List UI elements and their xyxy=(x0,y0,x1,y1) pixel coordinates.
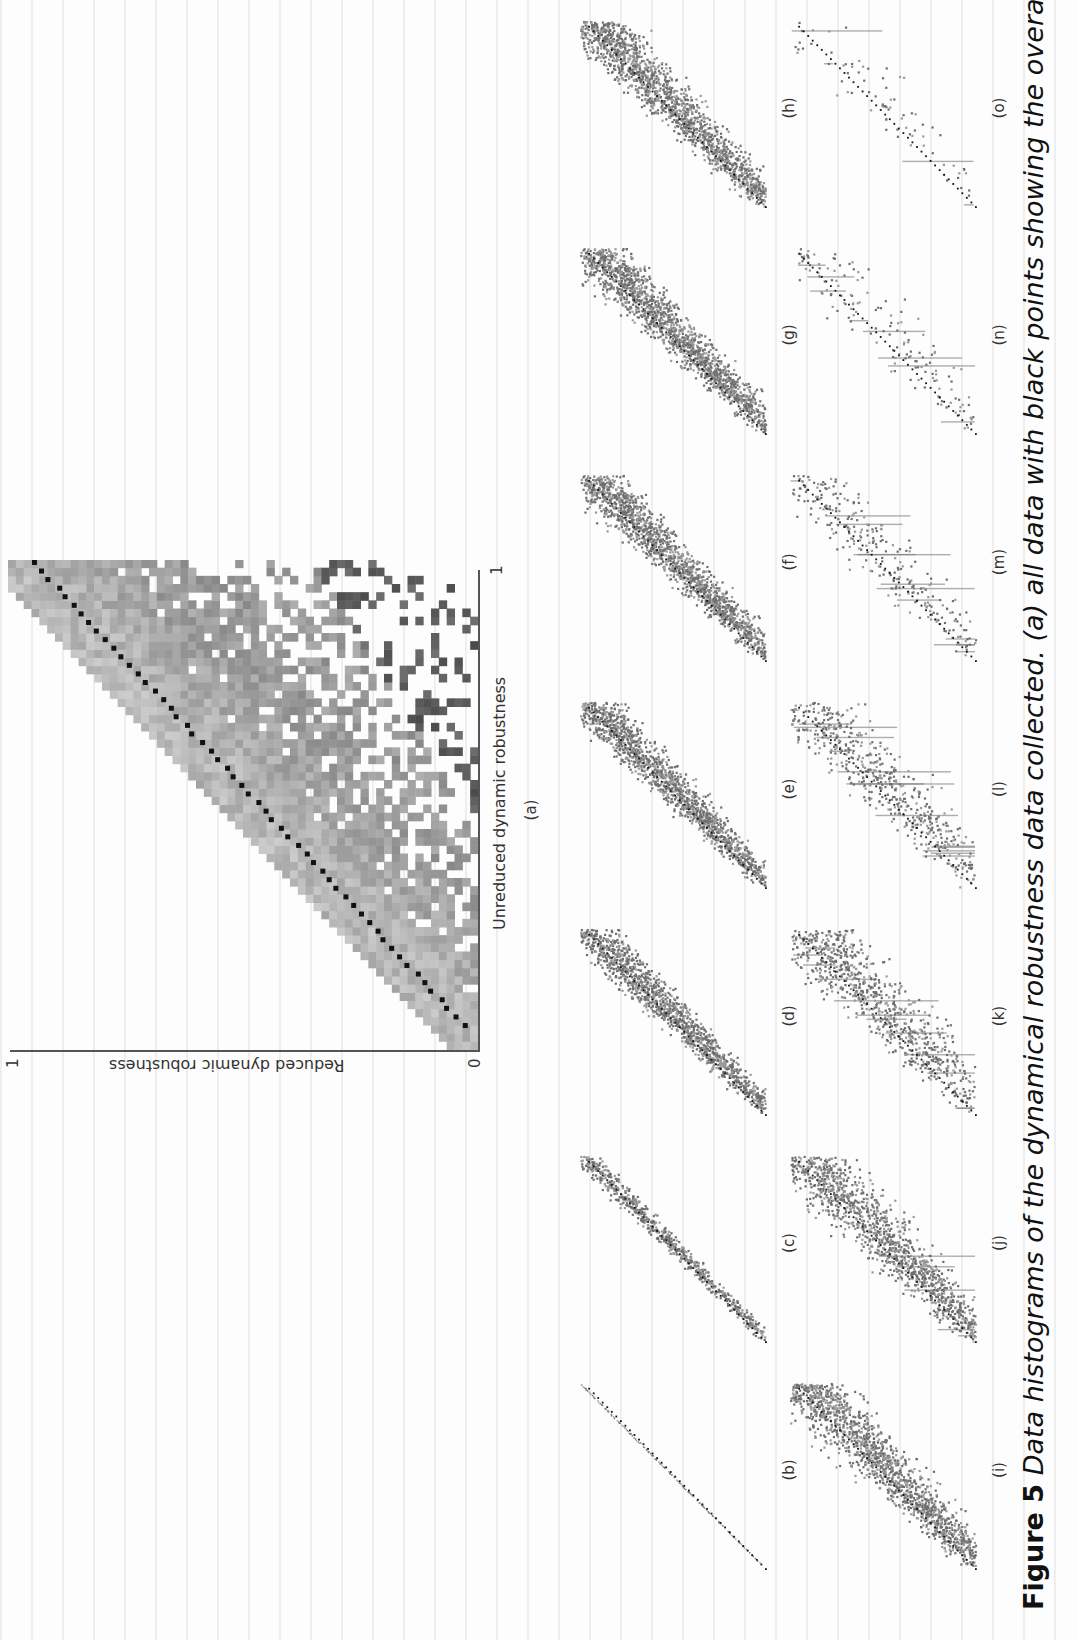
scatter-canvas xyxy=(580,1153,770,1343)
y-axis-line xyxy=(10,1050,480,1052)
plot-k: (k) xyxy=(790,916,1020,1116)
plot-e: (e) xyxy=(580,689,810,889)
scatter-canvas xyxy=(790,245,980,435)
scatter-canvas xyxy=(790,472,980,662)
scatter-canvas xyxy=(580,18,770,208)
plot-i: (i) xyxy=(790,1370,1020,1570)
panel-label-j: (j) xyxy=(990,1235,1008,1251)
plot-l: (l) xyxy=(790,689,1020,889)
scatter-canvas xyxy=(580,1380,770,1570)
plot-c: (c) xyxy=(580,1143,810,1343)
plot-f: (f) xyxy=(580,462,810,662)
scatter-canvas xyxy=(580,472,770,662)
plot-b: (b) xyxy=(580,1370,810,1570)
plot-g: (g) xyxy=(580,235,810,435)
scatter-canvas xyxy=(790,699,980,889)
plot-h: (h) xyxy=(580,8,810,208)
scatter-canvas xyxy=(790,1380,980,1570)
panel-label-i: (i) xyxy=(990,1462,1008,1478)
x-axis-line xyxy=(478,570,480,1052)
scatter-canvas xyxy=(790,18,980,208)
panel-label-o: (o) xyxy=(990,98,1008,119)
scatter-canvas xyxy=(580,245,770,435)
panel-label-n: (n) xyxy=(990,324,1008,345)
figure-caption: Figure 5 Data histograms of the dynamica… xyxy=(1018,10,1049,1610)
plot-o: (o) xyxy=(790,8,1020,208)
panel-label-k: (k) xyxy=(990,1006,1008,1026)
y-tick-0: 0 xyxy=(466,1058,484,1068)
plot-m: (m) xyxy=(790,462,1020,662)
x-axis-title: Unreduced dynamic robustness xyxy=(490,677,509,930)
panel-label-a: (a) xyxy=(522,800,540,821)
scatter-canvas xyxy=(580,699,770,889)
scatter-canvas xyxy=(790,926,980,1116)
heatmap-canvas xyxy=(8,560,478,1050)
scatter-canvas xyxy=(580,926,770,1116)
y-tick-1: 1 xyxy=(4,1058,22,1068)
panel-label-l: (l) xyxy=(990,781,1008,797)
rotated-figure-page: 1 0 1 Reduced dynamic robustness Unreduc… xyxy=(0,0,1078,1640)
plot-j: (j) xyxy=(790,1143,1020,1343)
scatter-canvas xyxy=(790,1153,980,1343)
plot-a-heatmap: 1 0 1 Reduced dynamic robustness Unreduc… xyxy=(0,550,560,1070)
plot-d: (d) xyxy=(580,916,810,1116)
x-tick-1: 1 xyxy=(488,565,506,575)
caption-text: Data histograms of the dynamical robustn… xyxy=(1018,0,1049,1484)
panel-label-m: (m) xyxy=(990,549,1008,575)
plot-n: (n) xyxy=(790,235,1020,435)
figure-number: Figure 5 xyxy=(1018,1484,1049,1610)
y-axis-title: Reduced dynamic robustness xyxy=(135,1056,345,1075)
